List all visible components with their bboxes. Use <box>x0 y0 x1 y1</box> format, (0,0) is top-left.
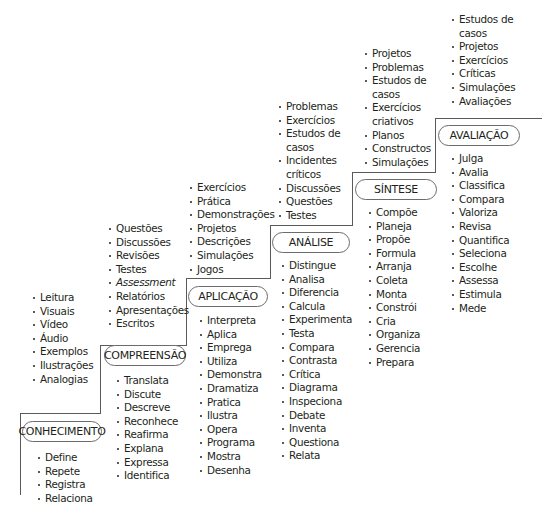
activity-item: Jogos <box>190 263 275 277</box>
level-pill-analise: ANÁLISE <box>272 232 350 253</box>
verb-item: Explana <box>117 442 178 456</box>
verb-item: Propõe <box>369 233 420 247</box>
verb-item: Compõe <box>369 206 420 220</box>
activity-item: Projetos <box>452 40 515 54</box>
verb-item: Quantifica <box>452 234 509 248</box>
activity-item: Planos <box>365 129 431 143</box>
avaliacao-verbs: Julga Avalia Classifica Compara Valoriza… <box>452 152 509 315</box>
activity-item: Assessment <box>109 276 189 290</box>
aplicacao-verbs: Interpreta Aplica Emprega Utiliza Demons… <box>200 314 262 477</box>
verb-item: Distingue <box>282 259 352 273</box>
activity-item: Incidentes <box>279 154 341 168</box>
activity-item: Estudos de <box>365 74 431 88</box>
activity-item: Demonstrações <box>190 208 275 222</box>
verb-item: Diferencia <box>282 286 352 300</box>
verb-item: Opera <box>200 423 262 437</box>
activity-item: Projetos <box>365 47 431 61</box>
activity-item: Avaliações <box>452 95 515 109</box>
verb-item: Estimula <box>452 288 509 302</box>
verb-item: Demonstra <box>200 368 262 382</box>
activity-item: Simulações <box>365 156 431 170</box>
aplicacao-activities: Exercícios Prática Demonstrações Projeto… <box>190 181 275 276</box>
verb-item: Contrasta <box>282 354 352 368</box>
activity-item: Exercícios <box>452 54 515 68</box>
activity-item: Ilustrações <box>33 359 93 373</box>
activity-item: críticos <box>279 168 341 182</box>
verb-item: Ilustra <box>200 409 262 423</box>
activity-item: Prática <box>190 195 275 209</box>
verb-item: Classifica <box>452 179 509 193</box>
verb-item: Pratica <box>200 396 262 410</box>
activity-item: Exercícios <box>279 114 341 128</box>
verb-item: Calcula <box>282 300 352 314</box>
level-pill-compreensao: COMPREENSÃO <box>104 345 186 366</box>
verb-item: Julga <box>452 152 509 166</box>
activity-item: Questões <box>279 195 341 209</box>
verb-item: Desenha <box>200 464 262 478</box>
stair-riser-2 <box>100 345 101 414</box>
verb-item: Repete <box>38 465 93 479</box>
activity-item: Relatórios <box>109 290 189 304</box>
verb-item: Aplica <box>200 328 262 342</box>
verb-item: Reconhece <box>117 415 178 429</box>
verb-item: Diagrama <box>282 381 352 395</box>
verb-item: Descreve <box>117 401 178 415</box>
stair-tread-1 <box>20 413 101 414</box>
verb-item: Utiliza <box>200 355 262 369</box>
verb-item: Compara <box>452 193 509 207</box>
activity-item: Visuais <box>33 305 93 319</box>
activity-item: Exemplos <box>33 345 93 359</box>
activity-item: Áudio <box>33 332 93 346</box>
verb-item: Relata <box>282 449 352 463</box>
activity-item: Problemas <box>279 100 341 114</box>
verb-item: Mede <box>452 302 509 316</box>
activity-item: Escritos <box>109 317 189 331</box>
activity-item: Críticas <box>452 67 515 81</box>
level-pill-sintese: SÍNTESE <box>355 179 437 200</box>
verb-item: Reafirma <box>117 428 178 442</box>
verb-item: Testa <box>282 327 352 341</box>
verb-item: Identifica <box>117 469 178 483</box>
verb-item: Seleciona <box>452 247 509 261</box>
compreensao-verbs: Translata Discute Descreve Reconhece Rea… <box>117 374 178 483</box>
verb-item: Arranja <box>369 260 420 274</box>
activity-item: Discussões <box>109 236 189 250</box>
sintese-verbs: Compõe Planeja Propõe Formula Arranja Co… <box>369 206 420 369</box>
verb-item: Compara <box>282 341 352 355</box>
activity-item: criativos <box>365 115 431 129</box>
level-pill-avaliacao: AVALIAÇÃO <box>438 125 520 146</box>
verb-item: Relaciona <box>38 492 93 505</box>
verb-item: Escolhe <box>452 261 509 275</box>
verb-item: Analisa <box>282 273 352 287</box>
level-pill-aplicacao: APLICAÇÃO <box>188 286 268 307</box>
stair-tread-6 <box>435 118 542 119</box>
verb-item: Interpreta <box>200 314 262 328</box>
activity-item: Questões <box>109 222 189 236</box>
conhecimento-activities: Leitura Visuais Vídeo Áudio Exemplos Ilu… <box>33 291 93 386</box>
verb-item: Debate <box>282 409 352 423</box>
activity-item: casos <box>279 141 341 155</box>
analise-verbs: Distingue Analisa Diferencia Calcula Exp… <box>282 259 352 463</box>
activity-item: Exercícios <box>365 101 431 115</box>
activity-item: Discussões <box>279 182 341 196</box>
verb-item: Planeja <box>369 220 420 234</box>
avaliacao-activities: Estudos de casos Projetos Exercícios Crí… <box>452 13 515 108</box>
verb-item: Emprega <box>200 341 262 355</box>
verb-item: Crítica <box>282 368 352 382</box>
stair-tread-4 <box>270 225 353 226</box>
verb-item: Coleta <box>369 274 420 288</box>
verb-item: Expressa <box>117 456 178 470</box>
sintese-activities: Projetos Problemas Estudos de casos Exer… <box>365 47 431 169</box>
stair-riser-6 <box>435 118 436 173</box>
verb-item: Questiona <box>282 436 352 450</box>
activity-item: Problemas <box>365 61 431 75</box>
activity-item: Exercícios <box>190 181 275 195</box>
activity-item: casos <box>452 27 515 41</box>
verb-item: Mostra <box>200 450 262 464</box>
activity-item: Estudos de <box>452 13 515 27</box>
verb-item: Discute <box>117 388 178 402</box>
verb-item: Organiza <box>369 328 420 342</box>
level-pill-conhecimento: CONHECIMENTO <box>22 421 102 442</box>
verb-item: Experimenta <box>282 313 352 327</box>
verb-item: Monta <box>369 288 420 302</box>
